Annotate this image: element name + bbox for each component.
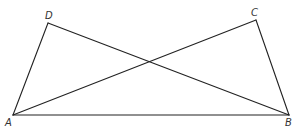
point-label-a: A: [5, 118, 12, 128]
geometry-diagram: A B C D: [0, 0, 298, 138]
segment-bd: [48, 23, 289, 115]
point-label-c: C: [251, 8, 258, 18]
point-label-b: B: [285, 118, 292, 128]
segment-ac: [13, 20, 256, 115]
segment-ad: [13, 23, 48, 115]
point-label-d: D: [45, 11, 53, 21]
segment-bc: [256, 20, 289, 115]
